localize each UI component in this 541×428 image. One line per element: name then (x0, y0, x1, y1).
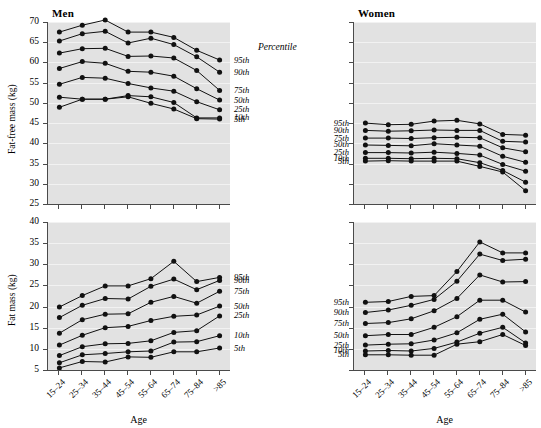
data-point (432, 293, 437, 298)
percentile-label-75th: 75th (309, 318, 349, 328)
series-line-10th (365, 327, 525, 351)
data-point (363, 321, 368, 326)
x-tick-mark (479, 371, 480, 375)
gridline (354, 222, 536, 223)
y-tick-mark (349, 349, 353, 350)
data-point (363, 352, 368, 357)
y-tick-mark (349, 222, 353, 223)
gridline (354, 307, 536, 308)
data-point (432, 297, 437, 302)
y-tick-mark (349, 328, 353, 329)
series-layer (354, 222, 537, 370)
data-point (454, 314, 459, 319)
data-point (500, 312, 505, 317)
x-tick-mark (456, 371, 457, 375)
x-axis-title: Age (353, 414, 536, 425)
data-point (477, 252, 482, 257)
series-line-25th (365, 314, 525, 345)
x-tick-mark (364, 371, 365, 375)
data-point (500, 280, 505, 285)
data-point (523, 310, 528, 315)
y-tick-mark (349, 264, 353, 265)
data-point (523, 250, 528, 255)
x-tick-mark (387, 371, 388, 375)
data-point (386, 308, 391, 313)
data-point (523, 343, 528, 348)
data-point (523, 279, 528, 284)
data-point (454, 296, 459, 301)
data-point (409, 341, 414, 346)
data-point (409, 332, 414, 337)
data-point (432, 308, 437, 313)
y-tick-mark (349, 243, 353, 244)
data-point (523, 329, 528, 334)
gridline (354, 264, 536, 265)
data-point (500, 298, 505, 303)
data-point (523, 340, 528, 345)
percentile-legend-header: Percentile (258, 42, 297, 52)
data-point (363, 333, 368, 338)
data-point (363, 300, 368, 305)
data-point (454, 340, 459, 345)
percentile-label-95th: 95th (309, 297, 349, 307)
data-point (363, 310, 368, 315)
series-line-95th (365, 242, 525, 302)
data-point (500, 258, 505, 263)
x-axis-line (353, 370, 536, 371)
data-point (454, 330, 459, 335)
y-tick-mark (349, 285, 353, 286)
data-point (432, 353, 437, 358)
gridline (354, 243, 536, 244)
data-point (454, 269, 459, 274)
data-point (386, 299, 391, 304)
data-point (454, 279, 459, 284)
data-point (432, 338, 437, 343)
panel-women-fat-mass: 15–2425–3435–4445–5455–6465–7475–84>85Ag… (0, 0, 541, 428)
data-point (477, 339, 482, 344)
data-point (500, 250, 505, 255)
data-point (386, 332, 391, 337)
series-line-5th (365, 335, 525, 356)
data-point (477, 272, 482, 277)
data-point (386, 352, 391, 357)
gridline (354, 349, 536, 350)
gridline (354, 285, 536, 286)
percentile-figure: Men25303540455055606570Fat-free mass (kg… (0, 0, 541, 428)
data-point (363, 343, 368, 348)
series-line-90th (365, 254, 525, 312)
data-point (386, 320, 391, 325)
data-point (477, 331, 482, 336)
data-point (477, 317, 482, 322)
data-point (477, 298, 482, 303)
x-tick-mark (502, 371, 503, 375)
gridline (354, 328, 536, 329)
x-tick-mark (433, 371, 434, 375)
data-point (409, 353, 414, 358)
percentile-label-90th: 90th (309, 307, 349, 317)
x-tick-mark (525, 371, 526, 375)
data-point (386, 342, 391, 347)
series-line-50th (365, 300, 525, 336)
data-point (409, 316, 414, 321)
y-tick-mark (349, 307, 353, 308)
percentile-label-5th: 5th (309, 349, 349, 359)
data-point (500, 332, 505, 337)
data-point (409, 294, 414, 299)
data-point (523, 257, 528, 262)
plot-area (353, 222, 536, 370)
data-point (454, 342, 459, 347)
series-line-75th (365, 275, 525, 324)
x-tick-mark (410, 371, 411, 375)
